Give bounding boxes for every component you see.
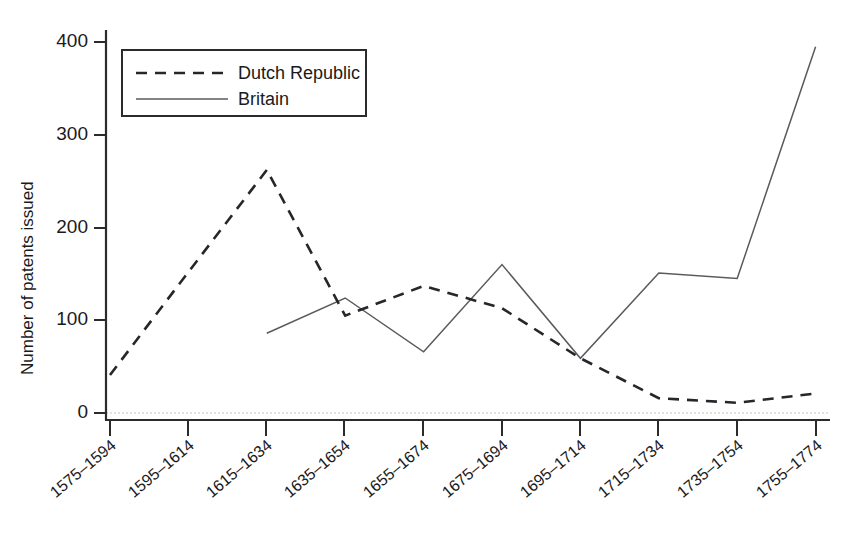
y-tick-label: 100 [56,308,88,329]
y-axis-title: Number of patents issued [18,181,37,375]
x-tick-label: 1755–1774 [753,436,825,501]
y-tick-label: 200 [56,216,88,237]
x-tick-label: 1655–1674 [360,436,432,501]
x-tick-label: 1715–1734 [595,436,667,501]
x-tick-label: 1615–1634 [203,436,275,501]
y-tick-label: 400 [56,30,88,51]
x-tick-label: 1735–1754 [674,436,746,501]
y-tick-label: 300 [56,123,88,144]
series-line-dutch-republic [110,170,816,403]
chart-container: 400 300 200 100 0 Number of patents issu… [0,0,860,550]
x-axis-ticks [110,420,816,436]
patents-line-chart: 400 300 200 100 0 Number of patents issu… [0,0,860,550]
y-tick-label: 0 [77,401,88,422]
legend-label-britain: Britain [238,89,289,109]
x-tick-label: 1675–1694 [439,436,511,501]
chart-legend: Dutch Republic Britain [122,50,366,116]
x-axis-labels: 1575–1594 1595–1614 1615–1634 1635–1654 … [47,436,825,501]
x-tick-label: 1635–1654 [281,436,353,501]
x-tick-label: 1695–1714 [517,436,589,501]
x-tick-label: 1595–1614 [125,436,197,501]
y-axis-ticks: 400 300 200 100 0 [56,30,106,422]
legend-label-dutch-republic: Dutch Republic [238,63,360,83]
x-tick-label: 1575–1594 [47,436,119,501]
